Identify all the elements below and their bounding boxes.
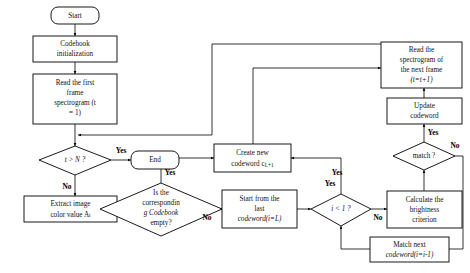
edge-label-codebookempty-yes: Yes: [165, 168, 176, 177]
node-startlast-line3: codeword(i=L): [238, 215, 282, 223]
node-iltone-label: i < 1 ?: [331, 205, 351, 213]
node-decision-match: match ?: [393, 142, 455, 170]
node-tgtn-label: t > N ?: [65, 156, 86, 164]
edge-label-match-yes: Yes: [428, 128, 439, 137]
flowchart-canvas: Start Codebook initialization Read the f…: [0, 0, 470, 273]
node-calculate-line1: Calculate the: [406, 196, 444, 204]
node-matchnext-line2: codeword(i=i-1): [386, 251, 434, 259]
node-readnext-line3: the next frame: [401, 66, 443, 74]
edge-readnext-to-loopback: [78, 42, 424, 135]
node-startlast-line1: Start from the: [240, 195, 280, 203]
node-codebookempty-line2: correspondin: [142, 199, 180, 207]
node-codebook-initialization: Codebook initialization: [33, 36, 117, 62]
edge-label-iltone-yes: Yes: [325, 179, 336, 188]
edge-label-match-no: No: [450, 141, 459, 150]
node-codebookempty-line4: empty?: [150, 219, 171, 227]
node-decision-i-lt-1: i < 1 ?: [311, 194, 371, 226]
node-read-first-frame: Read the first frame spectrogram (t = 1): [33, 74, 117, 124]
node-readnext-line2: spectrogram of: [400, 56, 444, 64]
node-start-from-last-codeword: Start from the last codeword(i=L): [222, 190, 297, 228]
node-matchnext-line1: Match next: [393, 241, 426, 249]
node-readfirst-line4: = 1): [69, 109, 81, 117]
edge-label-createnew-yes: Yes: [332, 168, 343, 177]
node-readfirst-line2: frame: [67, 89, 84, 97]
node-codebookempty-line1: Is the: [153, 189, 169, 197]
edge-createnew-to-readnext: [253, 68, 381, 144]
edge-matchnext-to-iltone: [341, 226, 370, 249]
node-read-next-frame: Read the spectrogram of the next frame (…: [381, 42, 462, 88]
edge-label-tgtn-yes: Yes: [116, 146, 127, 155]
node-extract-line1: Extract image: [50, 200, 90, 208]
node-end-label: End: [149, 156, 161, 164]
node-calculate-brightness: Calculate the brightness criterion: [387, 191, 462, 228]
edge-label-tgtn-no: No: [62, 182, 71, 191]
node-update-line2: codeword: [410, 112, 439, 120]
node-decision-t-gt-n: t > N ?: [39, 146, 111, 175]
node-update-codeword: Update codeword: [387, 98, 462, 124]
node-createnew-line1: Create new: [236, 149, 269, 157]
node-readfirst-line1: Read the first: [56, 79, 95, 87]
node-extract-line2: color value At: [50, 210, 91, 218]
node-init-line1: Codebook: [60, 40, 90, 48]
node-readnext-line1: Read the: [409, 46, 434, 54]
node-end: End: [131, 151, 179, 169]
node-match-next-codeword: Match next codeword(i=i-1): [370, 237, 449, 262]
node-start: Start: [51, 7, 99, 24]
edge-label-codebookempty-no: No: [202, 213, 211, 222]
edge-label-iltone-no: No: [373, 213, 382, 222]
flowchart-diagram: Start Codebook initialization Read the f…: [0, 0, 470, 273]
node-calculate-line3: criterion: [412, 216, 437, 224]
node-readfirst-line3: spectrogram (t: [54, 99, 96, 107]
node-startlast-line2: last: [255, 205, 265, 213]
node-codebookempty-line3: g Codebook: [144, 209, 179, 217]
node-start-label: Start: [68, 12, 82, 20]
node-match-label: match ?: [413, 152, 436, 160]
node-calculate-line2: brightness: [410, 206, 440, 214]
node-update-line1: Update: [414, 102, 435, 110]
node-readnext-line4: (t=t+1): [410, 76, 433, 84]
node-create-new-codeword: Create new codeword cL+1: [214, 144, 291, 172]
node-decision-codebook-empty: Is the correspondin g Codebook empty?: [100, 183, 222, 236]
node-init-line2: initialization: [57, 50, 94, 58]
